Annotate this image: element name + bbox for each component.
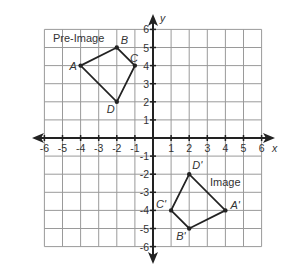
x-tick-label: -6 [40, 142, 49, 154]
vertex-label: D [107, 103, 115, 115]
axes [32, 14, 275, 264]
x-tick-label: 1 [168, 142, 174, 154]
x-tick-label: -3 [94, 142, 103, 154]
y-tick-label: -6 [140, 241, 149, 253]
image-vertex-point [187, 172, 191, 176]
y-tick-label: 1 [143, 114, 149, 126]
y-tick-label: -4 [140, 204, 149, 216]
vertex-label: C [130, 52, 138, 64]
image-label: Image [210, 176, 241, 188]
y-tick-label: -5 [140, 223, 149, 235]
y-tick-label: 5 [143, 42, 149, 54]
y-tick-label: -2 [140, 168, 149, 180]
image-vertex-point [169, 208, 173, 212]
y-tick-label: 4 [143, 60, 149, 72]
y-axis-label: y [159, 12, 166, 24]
vertex-label: D' [192, 159, 203, 171]
x-tick-label: 6 [259, 142, 265, 154]
pre-image-vertex-point [115, 45, 119, 49]
x-tick-label: -5 [58, 142, 67, 154]
y-tick-label: -1 [140, 150, 149, 162]
x-tick-label: -1 [130, 142, 139, 154]
vertex-label: B [121, 34, 128, 46]
vertex-label: A' [229, 199, 240, 211]
x-axis-label: x [271, 142, 278, 154]
x-tick-label: 5 [241, 142, 247, 154]
x-tick-label: 2 [186, 142, 192, 154]
y-tick-label: 6 [143, 23, 149, 35]
y-tick-label: 2 [143, 96, 149, 108]
vertex-label: A [69, 60, 77, 72]
x-tick-label: 3 [204, 142, 210, 154]
y-tick-label: -3 [140, 186, 149, 198]
y-tick-label: 3 [143, 78, 149, 90]
pre-image-polygon [81, 48, 135, 102]
vertex-label: B' [176, 230, 186, 242]
pre-image-label: Pre-Image [53, 32, 104, 44]
pre-image-vertex-point [133, 63, 137, 67]
x-tick-label: -4 [76, 142, 85, 154]
coordinate-plane: -6-5-4-3-2-1123456654321-1-2-3-4-5-6xy A… [0, 0, 295, 269]
vertex-label: C' [156, 198, 167, 210]
x-tick-label: -2 [112, 142, 121, 154]
tick-labels: -6-5-4-3-2-1123456654321-1-2-3-4-5-6xy [40, 12, 278, 253]
pre-image-vertex-point [78, 63, 82, 67]
coordinate-plane-figure: -6-5-4-3-2-1123456654321-1-2-3-4-5-6xy A… [0, 0, 295, 269]
pre-image-vertex-point [115, 100, 119, 104]
x-tick-label: 4 [222, 142, 228, 154]
image-vertex-point [223, 208, 227, 212]
image-vertex-point [187, 226, 191, 230]
